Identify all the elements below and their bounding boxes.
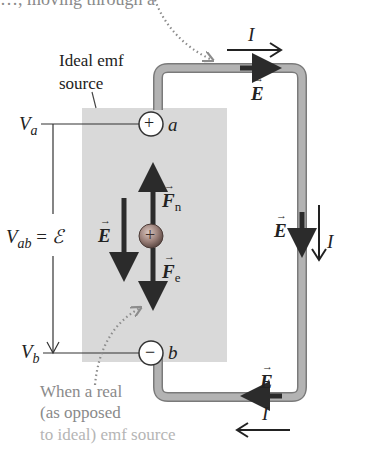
- top-caption-fragment: …, moving through a: [0, 0, 155, 8]
- electric-force-label: Fe: [162, 262, 180, 284]
- bottom-caption-line3: to ideal) emf source: [40, 426, 175, 443]
- internal-field-label: E: [98, 226, 111, 245]
- terminal-b-symbol: −: [145, 343, 155, 361]
- current-arrow-top: [227, 43, 281, 57]
- current-label-top: I: [248, 25, 254, 44]
- source-label-line2: source: [59, 75, 103, 92]
- current-arrow-bottom: [237, 423, 290, 437]
- field-label-top: E: [251, 84, 264, 103]
- current-arrow-right: [312, 205, 326, 260]
- bottom-caption-line1: When a real: [40, 383, 122, 400]
- terminal-a-label: a: [168, 115, 178, 134]
- top-dotted-pointer: [155, 0, 212, 60]
- nonelectric-force-label: Fn: [162, 191, 181, 213]
- field-label-right: E: [274, 221, 287, 240]
- field-label-bottom: E: [260, 372, 273, 391]
- source-leader-line: [92, 92, 96, 108]
- terminal-a-symbol: +: [144, 114, 154, 132]
- potential-difference-label: Vab = ℰ: [6, 227, 64, 251]
- source-label-line1: Ideal emf: [59, 52, 124, 69]
- charge-symbol: +: [145, 226, 155, 244]
- current-label-right: I: [327, 232, 333, 251]
- terminal-b-label: b: [168, 343, 178, 362]
- potential-a-label: Va: [19, 114, 38, 138]
- current-label-bottom: I: [262, 404, 268, 423]
- potential-b-label: Vb: [21, 342, 40, 366]
- bottom-caption-line2: (as opposed: [40, 404, 121, 421]
